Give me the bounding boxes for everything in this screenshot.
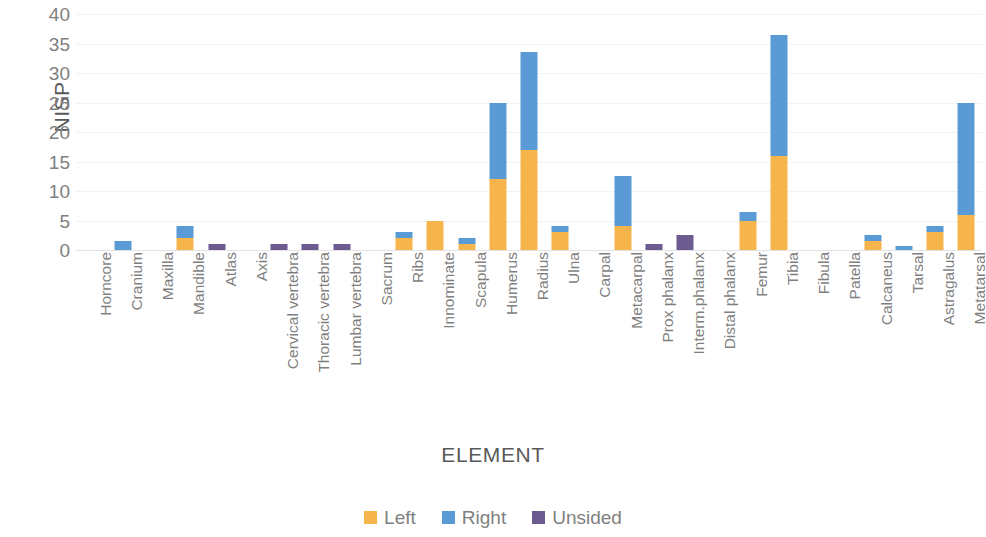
- bar-segment-left[interactable]: [864, 241, 881, 250]
- bar-stack[interactable]: [489, 103, 506, 250]
- x-axis-tick-label: Metatarsal: [972, 252, 986, 324]
- y-axis-tick-label: 40: [28, 5, 70, 24]
- bar-stack[interactable]: [958, 103, 975, 250]
- bar-segment-right[interactable]: [520, 52, 537, 149]
- legend-label: Unsided: [552, 508, 622, 527]
- bar-segment-left[interactable]: [927, 232, 944, 250]
- bar-slot: [795, 14, 826, 250]
- bar-segment-left[interactable]: [520, 150, 537, 250]
- bar-slot: [357, 14, 388, 250]
- bar-segment-unsided[interactable]: [645, 244, 662, 250]
- x-label-slot: Tarsal: [888, 252, 919, 432]
- bar-slot: [138, 14, 169, 250]
- x-label-slot: Prox phalanx: [638, 252, 669, 432]
- bar-chart: NISP 0510152025303540 HorncoreCraniumMax…: [0, 0, 986, 537]
- bar-stack[interactable]: [677, 235, 694, 250]
- bar-slot: [388, 14, 419, 250]
- bar-stack[interactable]: [645, 244, 662, 250]
- bar-stack[interactable]: [895, 246, 912, 250]
- bar-stack[interactable]: [177, 226, 194, 250]
- bar-slot: [263, 14, 294, 250]
- legend-label: Left: [384, 508, 416, 527]
- bar-segment-unsided[interactable]: [302, 244, 319, 250]
- bar-slot: [513, 14, 544, 250]
- bar-segment-right[interactable]: [958, 103, 975, 215]
- x-label-slot: Humerus: [482, 252, 513, 432]
- bar-segment-right[interactable]: [177, 226, 194, 238]
- x-label-slot: Cervical vertebra: [263, 252, 294, 432]
- bar-slot: [576, 14, 607, 250]
- bar-segment-left[interactable]: [396, 238, 413, 250]
- bar-slot: [76, 14, 107, 250]
- x-label-slot: Patella: [826, 252, 857, 432]
- bar-segment-right[interactable]: [614, 176, 631, 226]
- bars-layer: [76, 14, 982, 250]
- bar-segment-left[interactable]: [958, 215, 975, 250]
- bar-slot: [107, 14, 138, 250]
- bar-segment-unsided[interactable]: [333, 244, 350, 250]
- bar-stack[interactable]: [427, 221, 444, 251]
- bar-segment-right[interactable]: [114, 241, 131, 250]
- bar-segment-left[interactable]: [177, 238, 194, 250]
- bar-stack[interactable]: [208, 244, 225, 250]
- x-label-slot: Atlas: [201, 252, 232, 432]
- x-label-slot: Thoracic vertebra: [295, 252, 326, 432]
- y-axis-tick-label: 35: [28, 35, 70, 54]
- bar-stack[interactable]: [114, 241, 131, 250]
- bar-stack[interactable]: [396, 232, 413, 250]
- bar-stack[interactable]: [271, 244, 288, 250]
- bar-stack[interactable]: [864, 235, 881, 250]
- legend-item-left[interactable]: Left: [364, 508, 416, 527]
- bar-slot: [638, 14, 669, 250]
- bar-slot: [420, 14, 451, 250]
- bar-slot: [826, 14, 857, 250]
- bar-stack[interactable]: [770, 35, 787, 250]
- x-label-slot: Calcaneus: [857, 252, 888, 432]
- bar-segment-left[interactable]: [770, 156, 787, 250]
- bar-slot: [763, 14, 794, 250]
- bar-segment-right[interactable]: [770, 35, 787, 156]
- bar-stack[interactable]: [927, 226, 944, 250]
- x-label-slot: Metatarsal: [951, 252, 982, 432]
- x-label-slot: Scapula: [451, 252, 482, 432]
- x-label-slot: Ribs: [388, 252, 419, 432]
- legend-swatch-icon: [532, 511, 545, 524]
- x-label-slot: Ulna: [545, 252, 576, 432]
- bar-segment-right[interactable]: [739, 212, 756, 221]
- bar-segment-left[interactable]: [614, 226, 631, 250]
- y-axis-tick-labels: 0510152025303540: [28, 0, 70, 264]
- legend-item-right[interactable]: Right: [442, 508, 506, 527]
- bar-stack[interactable]: [614, 176, 631, 250]
- bar-stack[interactable]: [552, 226, 569, 250]
- bar-segment-right[interactable]: [895, 246, 912, 250]
- bar-segment-left[interactable]: [427, 221, 444, 251]
- bar-stack[interactable]: [520, 52, 537, 250]
- axis-baseline: [76, 250, 982, 251]
- legend-item-unsided[interactable]: Unsided: [532, 508, 622, 527]
- bar-slot: [732, 14, 763, 250]
- bar-segment-left[interactable]: [489, 179, 506, 250]
- bar-segment-left[interactable]: [552, 232, 569, 250]
- bar-stack[interactable]: [458, 238, 475, 250]
- bar-segment-unsided[interactable]: [208, 244, 225, 250]
- x-label-slot: Tibia: [763, 252, 794, 432]
- bar-segment-unsided[interactable]: [677, 235, 694, 250]
- bar-slot: [451, 14, 482, 250]
- legend: LeftRightUnsided: [0, 508, 986, 527]
- bar-segment-left[interactable]: [739, 221, 756, 251]
- bar-stack[interactable]: [739, 212, 756, 250]
- bar-slot: [170, 14, 201, 250]
- x-label-slot: Fibula: [795, 252, 826, 432]
- bar-slot: [951, 14, 982, 250]
- x-label-slot: Innominate: [420, 252, 451, 432]
- bar-segment-right[interactable]: [489, 103, 506, 180]
- bar-segment-left[interactable]: [458, 244, 475, 250]
- y-axis-tick-label: 10: [28, 182, 70, 201]
- bar-slot: [607, 14, 638, 250]
- bar-stack[interactable]: [333, 244, 350, 250]
- x-label-slot: Mandible: [170, 252, 201, 432]
- x-axis-title: ELEMENT: [0, 443, 986, 467]
- bar-stack[interactable]: [302, 244, 319, 250]
- y-axis-tick-label: 30: [28, 64, 70, 83]
- bar-segment-unsided[interactable]: [271, 244, 288, 250]
